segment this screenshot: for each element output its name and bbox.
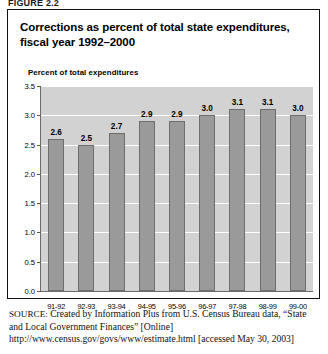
bar[interactable] [229,109,245,291]
bar-slot: 3.0 [192,86,222,291]
bar-slot: 2.6 [41,86,71,291]
bar-slot: 2.9 [132,86,162,291]
bar-slot: 2.5 [71,86,101,291]
chart-title: Corrections as percent of total state ex… [20,20,306,49]
bar[interactable] [139,121,155,291]
y-axis-tick-mark [37,86,41,87]
y-axis-tick-label: 0.5 [24,257,35,266]
y-axis-tick-label: 2.0 [24,169,35,178]
chart-frame: Corrections as percent of total state ex… [7,9,320,299]
bar[interactable] [169,121,185,291]
y-axis-tick-mark [37,174,41,175]
chart-title-line-2: fiscal year 1992–2000 [20,35,306,50]
y-axis-tick-label: 3.0 [24,111,35,120]
y-axis-label: Percent of total expenditures [28,68,138,77]
y-axis-tick-label: 0.0 [24,287,35,296]
plot-wrapper: 2.62.52.72.92.93.03.13.13.0 0.00.51.01.5… [41,86,313,291]
bar[interactable] [48,139,64,291]
y-axis-tick-mark [37,145,41,146]
x-axis-line [40,291,313,292]
bar-value-label: 2.9 [171,110,182,119]
y-axis-tick-label: 3.5 [24,82,35,91]
bar-value-label: 3.0 [292,104,303,113]
bar-value-label: 2.9 [141,110,152,119]
source-label: SOURCE: [9,309,48,319]
source-note: SOURCE: Created by Information Plus from… [9,308,321,346]
bar-value-label: 2.6 [50,128,61,137]
y-axis-tick-mark [37,291,41,292]
y-axis-tick-label: 2.5 [24,140,35,149]
y-axis-tick-labels: 0.00.51.01.52.02.53.03.5 [9,86,35,291]
bar-value-label: 3.1 [232,98,243,107]
bar[interactable] [78,145,94,291]
bars-group: 2.62.52.72.92.93.03.13.13.0 [41,86,313,291]
bar[interactable] [109,133,125,291]
bar-slot: 2.9 [162,86,192,291]
bar[interactable] [199,115,215,291]
y-axis-tick-mark [37,115,41,116]
bar-slot: 2.7 [101,86,131,291]
bar-slot: 3.1 [253,86,283,291]
figure-caption: FIGURE 2.2 [8,0,59,8]
bar-value-label: 3.1 [262,98,273,107]
chart-title-line-1: Corrections as percent of total state ex… [20,20,306,35]
y-axis-tick-label: 1.5 [24,199,35,208]
bar-value-label: 2.5 [81,134,92,143]
y-axis-tick-label: 1.0 [24,228,35,237]
plot-area: 2.62.52.72.92.93.03.13.13.0 [41,86,313,291]
bar[interactable] [260,109,276,291]
bar-slot: 3.0 [283,86,313,291]
y-axis-tick-mark [37,262,41,263]
bar-value-label: 3.0 [202,104,213,113]
bar-value-label: 2.7 [111,122,122,131]
bar[interactable] [290,115,306,291]
source-text: Created by Information Plus from U.S. Ce… [9,308,307,344]
y-axis-line [40,86,41,291]
bar-slot: 3.1 [222,86,252,291]
y-axis-tick-mark [37,232,41,233]
y-axis-tick-mark [37,203,41,204]
